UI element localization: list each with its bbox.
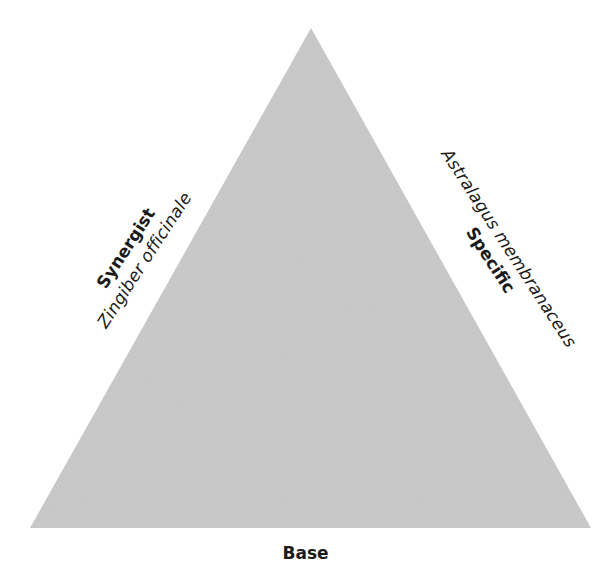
triangle-diagram: Synergist Zingiber officinale Specific A… (0, 0, 611, 570)
base-title: Base (0, 542, 611, 564)
base-label: Base (0, 542, 611, 564)
